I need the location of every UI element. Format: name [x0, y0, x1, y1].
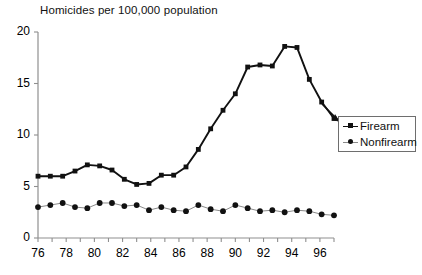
nonfirearm-series-marker-icon — [343, 136, 358, 148]
x-axis-tick-label: 92 — [251, 246, 277, 260]
data-point-firearm — [122, 177, 127, 182]
x-axis-tick-label: 94 — [279, 246, 305, 260]
data-point-firearm — [196, 147, 201, 152]
data-point-nonfirearm — [245, 205, 251, 211]
legend-label-nonfirearm: Nonfirearm — [360, 136, 417, 148]
data-point-firearm — [171, 173, 176, 178]
chart-legend: Firearm Nonfirearm — [338, 116, 416, 152]
data-point-nonfirearm — [208, 206, 214, 212]
data-point-nonfirearm — [146, 207, 152, 213]
y-axis-tick-label: 5 — [4, 179, 30, 193]
data-point-firearm — [245, 65, 250, 70]
legend-item-firearm: Firearm — [343, 118, 400, 134]
data-point-nonfirearm — [158, 204, 164, 210]
data-point-nonfirearm — [97, 200, 103, 206]
data-point-firearm — [73, 169, 78, 174]
x-axis-tick-label: 78 — [53, 246, 79, 260]
data-point-nonfirearm — [84, 205, 90, 211]
x-axis-tick-label: 88 — [194, 246, 220, 260]
data-point-firearm — [295, 45, 300, 50]
data-point-firearm — [221, 108, 226, 113]
data-point-firearm — [282, 44, 287, 49]
data-point-nonfirearm — [331, 212, 337, 218]
data-point-firearm — [134, 182, 139, 187]
data-point-nonfirearm — [294, 207, 300, 213]
data-point-nonfirearm — [257, 208, 263, 214]
data-point-firearm — [97, 164, 102, 169]
legend-label-firearm: Firearm — [360, 120, 400, 132]
x-axis-tick-label: 84 — [138, 246, 164, 260]
data-point-firearm — [147, 181, 152, 186]
data-point-firearm — [307, 77, 312, 82]
data-point-nonfirearm — [171, 207, 177, 213]
data-point-nonfirearm — [72, 204, 78, 210]
legend-item-nonfirearm: Nonfirearm — [343, 134, 417, 150]
data-point-firearm — [208, 126, 213, 131]
data-point-nonfirearm — [269, 207, 275, 213]
y-axis-tick-label: 20 — [4, 24, 30, 38]
data-point-nonfirearm — [232, 202, 238, 208]
data-point-firearm — [319, 100, 324, 105]
y-axis-tick-label: 0 — [4, 230, 30, 244]
data-point-nonfirearm — [35, 204, 41, 210]
firearm-series-marker-icon — [343, 120, 358, 132]
data-point-firearm — [233, 91, 238, 96]
data-point-nonfirearm — [319, 211, 325, 217]
x-axis-tick-label: 90 — [222, 246, 248, 260]
data-point-firearm — [270, 64, 275, 69]
x-axis-tick-label: 82 — [110, 246, 136, 260]
data-point-nonfirearm — [134, 202, 140, 208]
x-axis-tick-label: 80 — [81, 246, 107, 260]
data-point-nonfirearm — [195, 202, 201, 208]
y-axis-tick-label: 15 — [4, 76, 30, 90]
series-layer — [35, 44, 337, 218]
data-point-nonfirearm — [109, 200, 115, 206]
x-axis-tick-label: 86 — [166, 246, 192, 260]
data-point-firearm — [258, 63, 263, 68]
data-point-nonfirearm — [220, 208, 226, 214]
data-point-nonfirearm — [47, 202, 53, 208]
data-point-firearm — [159, 173, 164, 178]
data-point-firearm — [85, 162, 90, 167]
series-line-firearm — [38, 46, 334, 184]
data-point-nonfirearm — [60, 200, 66, 206]
data-point-firearm — [110, 168, 115, 173]
data-point-nonfirearm — [183, 208, 189, 214]
data-point-nonfirearm — [306, 208, 312, 214]
homicides-line-chart: Homicides per 100,000 population 0510152… — [0, 0, 422, 275]
x-axis-tick-label: 96 — [307, 246, 333, 260]
data-point-nonfirearm — [282, 209, 288, 215]
data-point-nonfirearm — [121, 203, 127, 209]
y-axis-tick-label: 10 — [4, 127, 30, 141]
data-point-firearm — [48, 174, 53, 179]
data-point-firearm — [184, 165, 189, 170]
data-point-firearm — [60, 174, 65, 179]
x-axis-tick-label: 76 — [25, 246, 51, 260]
data-point-firearm — [36, 174, 41, 179]
